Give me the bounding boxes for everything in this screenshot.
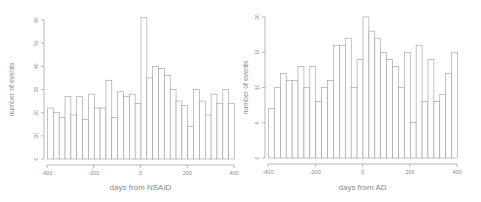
histogram-bar <box>416 45 422 158</box>
histogram-bar <box>446 73 452 158</box>
histogram-bar <box>292 80 298 158</box>
histogram-bar <box>363 17 369 158</box>
histogram-bar <box>141 18 147 159</box>
histogram-bar <box>48 108 54 159</box>
histogram-bar <box>310 66 316 158</box>
y-tick-label: 20 <box>33 110 39 116</box>
histogram-bar <box>440 95 446 158</box>
histogram-bar <box>410 123 416 158</box>
x-tick-label: 400 <box>452 169 461 175</box>
histogram-bar <box>164 76 170 159</box>
x-tick-label: -200 <box>310 169 321 175</box>
y-tick-label: 0 <box>254 156 260 159</box>
x-tick-label: 0 <box>361 169 364 175</box>
histogram-bar <box>59 117 65 159</box>
y-tick-label: 10 <box>254 85 260 91</box>
histogram-bar <box>229 103 235 159</box>
bars <box>269 17 458 158</box>
histogram-bar <box>387 59 393 158</box>
histogram-bar <box>65 96 71 159</box>
histogram-bar <box>339 45 345 158</box>
chart-canvas: 0102030405060number of events-400-200020… <box>0 0 240 202</box>
histogram-ad: 05101520number of events-400-2000200400d… <box>240 0 481 202</box>
y-tick-label: 15 <box>254 49 260 55</box>
y-axis-label: number of events <box>8 62 15 117</box>
histogram-bar <box>176 101 182 159</box>
x-axis-label: days from AD <box>338 183 386 192</box>
histogram-bar <box>345 38 351 158</box>
histogram-bar <box>381 52 387 158</box>
histogram-bar <box>428 59 434 158</box>
y-axis: 0102030405060 <box>33 17 44 160</box>
histogram-bar <box>286 80 292 158</box>
histogram-bar <box>170 90 176 160</box>
histogram-bar <box>422 102 428 158</box>
histogram-bar <box>106 80 112 159</box>
histogram-bar <box>199 101 205 159</box>
histogram-bar <box>53 113 59 159</box>
histogram-bar <box>333 45 339 158</box>
histogram-bar <box>147 78 153 159</box>
x-tick-label: 200 <box>183 170 192 176</box>
histogram-bar <box>112 117 118 159</box>
x-tick-label: 200 <box>405 169 414 175</box>
histogram-bar <box>398 88 404 159</box>
y-tick-label: 20 <box>254 14 260 20</box>
x-tick-label: 400 <box>229 170 238 176</box>
histogram-bar <box>217 103 223 159</box>
histogram-bar <box>94 108 100 159</box>
histogram-nsaid: 0102030405060number of events-400-200020… <box>0 0 240 202</box>
y-tick-label: 40 <box>33 63 39 69</box>
histogram-bar <box>194 90 200 160</box>
bars <box>48 18 235 159</box>
x-tick-label: -400 <box>41 170 52 176</box>
histogram-bar <box>434 102 440 158</box>
histogram-bar <box>223 90 229 160</box>
histogram-bar <box>77 96 83 159</box>
y-tick-label: 30 <box>33 87 39 93</box>
histogram-bar <box>375 38 381 158</box>
histogram-bar <box>357 59 363 158</box>
histogram-bar <box>304 88 310 159</box>
histogram-bar <box>135 103 141 159</box>
histogram-bar <box>83 120 89 159</box>
chart-canvas: 05101520number of events-400-2000200400d… <box>240 0 481 202</box>
histogram-bar <box>269 109 275 158</box>
x-axis: -400-2000200400 <box>262 164 461 175</box>
histogram-bar <box>100 108 106 159</box>
y-tick-label: 0 <box>33 157 39 160</box>
y-axis: 05101520 <box>254 14 265 159</box>
histogram-bar <box>328 80 334 158</box>
histogram-bar <box>211 94 217 159</box>
x-tick-label: 0 <box>139 170 142 176</box>
histogram-bar <box>205 115 211 159</box>
histogram-bar <box>88 94 94 159</box>
x-tick-label: -200 <box>88 170 99 176</box>
histogram-bar <box>351 88 357 159</box>
histogram-bar <box>298 66 304 158</box>
x-axis: -400-2000200400 <box>41 165 238 176</box>
x-tick-label: -400 <box>262 169 273 175</box>
histogram-bar <box>153 66 159 159</box>
histogram-bar <box>182 106 188 159</box>
histogram-bar <box>393 66 399 158</box>
histogram-bar <box>159 69 165 159</box>
y-axis-label: number of events <box>242 60 249 115</box>
y-tick-label: 50 <box>33 40 39 46</box>
x-axis-label: days from NSAID <box>110 183 172 192</box>
histogram-bar <box>188 127 194 159</box>
histogram-bar <box>404 52 410 158</box>
histogram-bar <box>280 73 286 158</box>
histogram-bar <box>369 31 375 158</box>
histogram-bar <box>71 115 77 159</box>
y-tick-label: 10 <box>33 133 39 139</box>
histogram-bar <box>123 96 129 159</box>
histogram-bar <box>118 92 124 159</box>
histogram-bar <box>129 94 135 159</box>
histogram-bar <box>452 52 458 158</box>
y-tick-label: 60 <box>33 17 39 23</box>
histogram-bar <box>274 88 280 159</box>
histogram-bar <box>322 88 328 159</box>
y-tick-label: 5 <box>254 121 260 124</box>
histogram-bar <box>316 102 322 158</box>
